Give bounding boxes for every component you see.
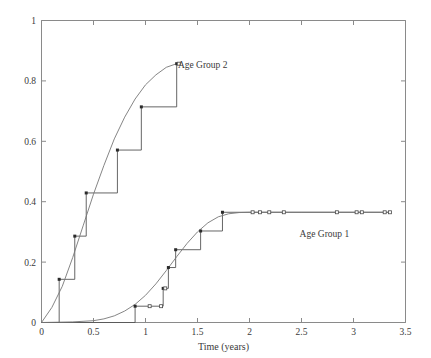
censored-observation-marker	[258, 211, 261, 214]
series-annotation-label: Age Group 1	[300, 229, 350, 239]
data-point-marker	[58, 278, 61, 281]
x-axis-title: Time (years)	[198, 341, 249, 353]
y-tick-label: 0.8	[24, 76, 36, 86]
chart-background	[0, 0, 431, 358]
x-tick-label: 0	[39, 327, 44, 337]
censored-observation-marker	[268, 211, 271, 214]
data-point-marker	[140, 105, 143, 108]
x-tick-label: 2.5	[296, 327, 308, 337]
series-annotation-label: Age Group 2	[178, 60, 228, 70]
x-tick-label: 3.5	[400, 327, 412, 337]
x-tick-label: 0.5	[88, 327, 100, 337]
data-point-marker	[134, 305, 137, 308]
y-tick-label: 0	[31, 318, 36, 328]
data-point-marker	[174, 248, 177, 251]
data-point-marker	[116, 149, 119, 152]
x-tick-label: 1	[143, 327, 148, 337]
data-point-marker	[167, 266, 170, 269]
censored-observation-marker	[383, 211, 386, 214]
x-tick-label: 1.5	[192, 327, 204, 337]
x-tick-label: 3	[351, 327, 356, 337]
censored-observation-marker	[360, 211, 363, 214]
survival-curve-chart: 00.511.522.533.5 00.20.40.60.81 Age Grou…	[0, 0, 431, 358]
censored-observation-marker	[160, 305, 163, 308]
censored-observation-marker	[282, 211, 285, 214]
data-point-marker	[85, 191, 88, 194]
censored-observation-marker	[164, 287, 167, 290]
y-tick-label: 1	[31, 16, 36, 26]
censored-observation-marker	[388, 211, 391, 214]
censored-observation-marker	[251, 211, 254, 214]
censored-observation-marker	[355, 211, 358, 214]
y-tick-label: 0.4	[24, 197, 36, 207]
data-point-marker	[199, 229, 202, 232]
y-tick-label: 0.6	[24, 137, 36, 147]
y-tick-label: 0.2	[24, 258, 36, 268]
censored-observation-marker	[148, 305, 151, 308]
x-tick-label: 2	[247, 327, 252, 337]
censored-observation-marker	[335, 211, 338, 214]
data-point-marker	[73, 235, 76, 238]
data-point-marker	[221, 211, 224, 214]
plot-area: 00.511.522.533.5 00.20.40.60.81 Age Grou…	[0, 0, 431, 358]
